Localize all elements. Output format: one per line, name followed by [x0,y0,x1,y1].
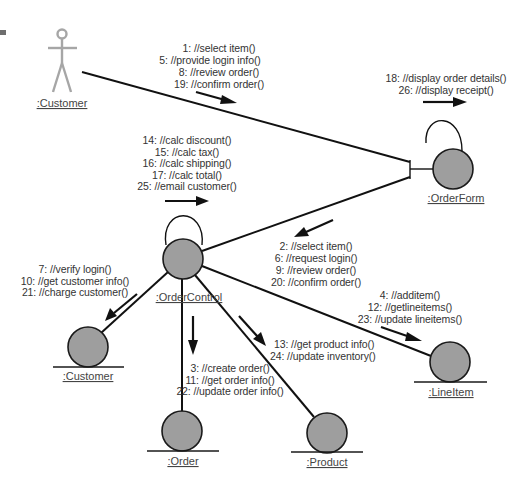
orderform-circle [433,149,473,189]
svg-text:21: //charge customer(): 21: //charge customer() [22,286,128,298]
arrow-ordercontrol-self-icon [165,196,209,206]
arrow-orderform-self-icon [423,97,467,107]
arrow-ordercontrol-order-icon [188,316,198,355]
order-circle [162,411,202,451]
messages-actor-orderform: 1: //select item() 5: //provide login in… [159,42,264,90]
actor-head-icon [58,30,67,39]
messages-ordercontrol-customer: 7: //verify login() 10: //get customer i… [21,263,129,298]
customer-label: :Customer [63,370,114,382]
customer-circle [68,327,108,367]
svg-text:13: //get product info(): 13: //get product info() [274,338,374,350]
lineitem-circle [430,342,470,382]
svg-text:16: //calc shipping(): 16: //calc shipping() [143,157,232,169]
object-order[interactable]: :Order [147,411,219,467]
arrow-ordercontrol-customer-icon [105,294,137,321]
svg-text:18: //display order details(): 18: //display order details() [386,72,507,84]
object-lineitem[interactable]: :LineItem [414,342,487,398]
messages-ordercontrol-order: 3: //create order() 11: //get order info… [176,362,283,397]
ordercontrol-circle [163,239,203,279]
svg-text:19: //confirm order(): 19: //confirm order() [174,78,264,90]
messages-ordercontrol-product: 13: //get product info() 24: //update in… [270,338,376,362]
svg-text:8: //review order(): 8: //review order() [179,66,259,78]
object-customer[interactable]: :Customer [53,327,124,382]
actor-customer[interactable]: :Customer [37,30,88,110]
messages-orderform-self: 18: //display order details() 26: //disp… [386,72,507,96]
order-label: :Order [167,455,199,467]
object-ordercontrol[interactable]: :OrderControl [156,216,223,303]
svg-text:22: //update order info(): 22: //update order info() [176,385,283,397]
product-circle [307,413,347,453]
svg-text:4: //additem(): 4: //additem() [380,289,440,301]
orderform-self-loop [426,121,462,151]
actor-customer-label: :Customer [37,97,88,109]
svg-text:24: //update inventory(): 24: //update inventory() [270,350,376,362]
svg-text:20: //confirm order(): 20: //confirm order() [271,276,361,288]
svg-text:14: //calc discount(): 14: //calc discount() [143,134,232,146]
arrow-actor-orderform-icon [196,92,237,104]
svg-text:5: //provide login info(): 5: //provide login info() [159,54,260,66]
orderform-label: :OrderForm [428,192,485,204]
object-product[interactable]: :Product [291,413,363,468]
svg-text:1: //select item(): 1: //select item() [183,42,256,54]
messages-orderform-ordercontrol: 2: //select item() 6: //request login() … [271,240,361,288]
collaboration-diagram: :Customer :OrderForm :OrderControl :Cust… [0,0,516,494]
ordercontrol-label: :OrderControl [156,291,223,303]
messages-ordercontrol-lineitem: 4: //additem() 12: //getlineitems() 23: … [358,289,462,325]
corner-mark [0,30,6,35]
svg-text:6: //request login(): 6: //request login() [275,252,358,264]
svg-text:7: //verify login(): 7: //verify login() [39,263,112,275]
arrow-orderform-ordercontrol-icon [294,220,333,237]
svg-text:12: //getlineitems(): 12: //getlineitems() [368,301,452,313]
svg-text:23: //update lineitems(): 23: //update lineitems() [358,313,462,325]
lineitem-label: :LineItem [428,386,473,398]
object-orderform[interactable]: :OrderForm [410,121,484,204]
svg-text:25: //email customer(): 25: //email customer() [137,180,236,192]
svg-text:3: //create order(): 3: //create order() [190,362,269,374]
svg-text:2: //select item(): 2: //select item() [280,240,353,252]
svg-text:9: //review order(): 9: //review order() [276,264,356,276]
product-label: :Product [307,456,348,468]
svg-text:26: //display receipt(): 26: //display receipt() [398,84,493,96]
messages-ordercontrol-self: 14: //calc discount() 15: //calc tax() 1… [137,134,236,192]
